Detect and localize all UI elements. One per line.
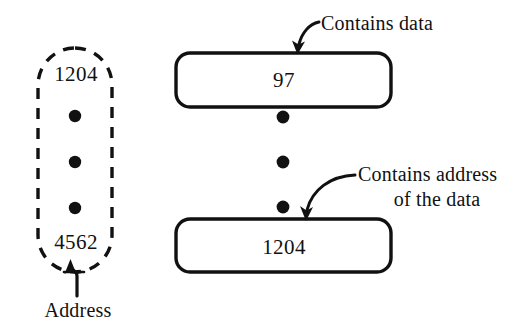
address-column-top-value: 1204 (54, 64, 98, 85)
bullet-dot-icon (69, 110, 81, 122)
bullet-dot-icon (69, 202, 81, 214)
bullet-dot-icon (277, 156, 290, 169)
curved-arrow-icon (300, 175, 355, 221)
contains-data-annotation: Contains data (321, 13, 433, 33)
curved-arrow-icon (292, 22, 319, 55)
bullet-dot-icon (69, 156, 81, 168)
contains-address-annotation-line1: Contains address (358, 164, 497, 184)
data-box-value: 97 (273, 70, 295, 91)
contains-address-annotation-line2: of the data (394, 189, 481, 209)
pointer-box-value: 1204 (262, 237, 306, 258)
arrow-up-icon (64, 259, 84, 296)
diagram-canvas: 1204 4562 Address 97 1204 Contains data … (0, 0, 531, 334)
address-caption-label: Address (45, 300, 112, 320)
bullet-dot-icon (277, 201, 290, 214)
address-column-bottom-value: 4562 (54, 232, 98, 253)
bullet-dot-icon (277, 111, 290, 124)
